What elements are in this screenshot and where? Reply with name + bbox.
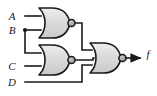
nor-gate-2-body (39, 45, 70, 75)
input-label-b: B (9, 24, 16, 36)
output-label-f: f (146, 48, 151, 60)
wire-gate2-to-gate3 (74, 58, 94, 60)
input-label-a: A (8, 10, 16, 22)
input-label-c: C (8, 60, 16, 72)
wire-gate1-to-gate3 (74, 23, 92, 50)
logic-circuit-diagram: A B C D f (0, 0, 157, 96)
nor-gate-1-body (39, 8, 70, 38)
wire-b-branch-to-gate2 (25, 30, 41, 53)
nor-gate-3-inversion-bubble (119, 54, 126, 61)
nor-gate-1-inversion-bubble (68, 19, 75, 26)
junction-dot-b (23, 28, 27, 32)
input-label-d: D (7, 76, 16, 88)
nor-gate-3 (90, 43, 126, 73)
nor-gate-1 (39, 8, 75, 38)
nor-gate-2 (39, 45, 75, 75)
circuit-canvas: A B C D f (0, 0, 157, 96)
nor-gate-2-inversion-bubble (68, 56, 75, 63)
